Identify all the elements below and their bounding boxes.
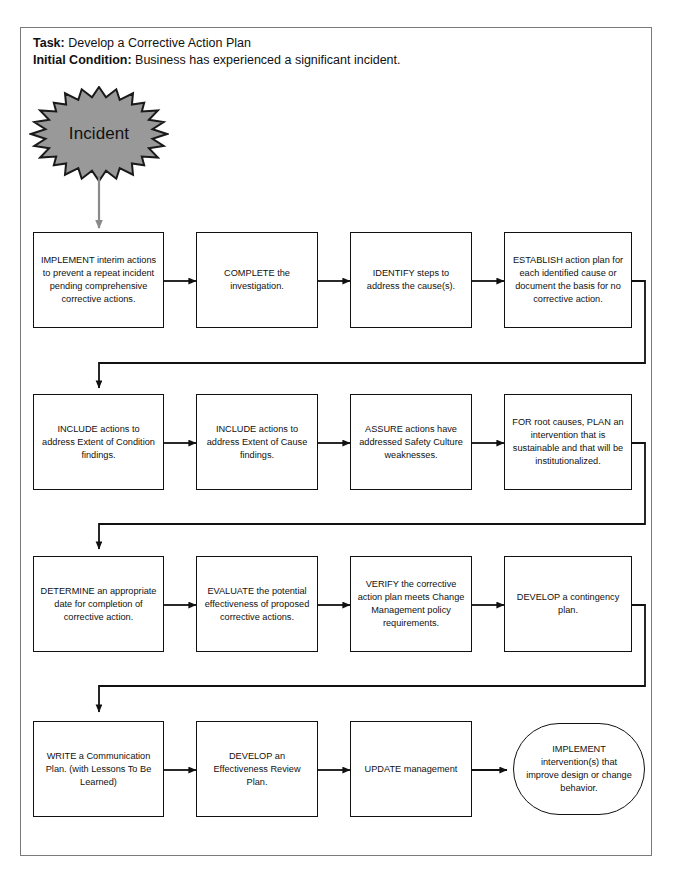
node-establish-action-plan[interactable]: ESTABLISH action plan for each identifie… [504,232,632,328]
flowchart-page: Task: Develop a Corrective Action Plan I… [0,0,674,878]
incident-starburst: Incident [29,86,169,182]
node-text: IMPLEMENT interim actions to prevent a r… [40,254,157,306]
node-text: INCLUDE actions to address Extent of Con… [40,423,157,462]
node-implement-interim-actions[interactable]: IMPLEMENT interim actions to prevent a r… [33,232,164,328]
node-write-communication-plan[interactable]: WRITE a Communication Plan. (with Lesson… [33,721,164,817]
node-text: DEVELOP a contingency plan. [511,591,625,617]
node-complete-investigation[interactable]: COMPLETE the investigation. [196,232,318,328]
node-plan-root-cause-intervention[interactable]: FOR root causes, PLAN an intervention th… [504,394,632,490]
node-text: IMPLEMENT intervention(s) that improve d… [524,743,634,795]
node-text: VERIFY the corrective action plan meets … [357,578,465,630]
task-label: Task: [33,36,65,50]
node-text: ESTABLISH action plan for each identifie… [511,254,625,306]
node-text: UPDATE management [357,763,465,776]
node-text: WRITE a Communication Plan. (with Lesson… [40,750,157,789]
initial-condition-value: Business has experienced a significant i… [132,53,401,67]
node-identify-steps[interactable]: IDENTIFY steps to address the cause(s). [350,232,472,328]
node-text: ASSURE actions have addressed Safety Cul… [357,423,465,462]
node-determine-completion-date[interactable]: DETERMINE an appropriate date for comple… [33,556,164,652]
node-verify-change-management[interactable]: VERIFY the corrective action plan meets … [350,556,472,652]
node-include-extent-of-cause[interactable]: INCLUDE actions to address Extent of Cau… [196,394,318,490]
node-evaluate-effectiveness[interactable]: EVALUATE the potential effectiveness of … [196,556,318,652]
node-implement-interventions[interactable]: IMPLEMENT intervention(s) that improve d… [513,723,645,815]
node-text: DEVELOP an Effectiveness Review Plan. [203,750,311,789]
node-text: COMPLETE the investigation. [203,267,311,293]
initial-condition-label: Initial Condition: [33,53,132,67]
node-update-management[interactable]: UPDATE management [350,721,472,817]
node-text: INCLUDE actions to address Extent of Cau… [203,423,311,462]
header-block: Task: Develop a Corrective Action Plan I… [33,35,613,68]
node-assure-safety-culture[interactable]: ASSURE actions have addressed Safety Cul… [350,394,472,490]
node-text: DETERMINE an appropriate date for comple… [40,585,157,624]
node-text: IDENTIFY steps to address the cause(s). [357,267,465,293]
node-develop-effectiveness-review-plan[interactable]: DEVELOP an Effectiveness Review Plan. [196,721,318,817]
incident-label: Incident [29,86,169,182]
node-develop-contingency-plan[interactable]: DEVELOP a contingency plan. [504,556,632,652]
task-value: Develop a Corrective Action Plan [65,36,251,50]
node-include-extent-of-condition[interactable]: INCLUDE actions to address Extent of Con… [33,394,164,490]
node-text: FOR root causes, PLAN an intervention th… [511,416,625,468]
initial-condition-line: Initial Condition: Business has experien… [33,52,613,69]
task-line: Task: Develop a Corrective Action Plan [33,35,613,52]
node-text: EVALUATE the potential effectiveness of … [203,585,311,624]
